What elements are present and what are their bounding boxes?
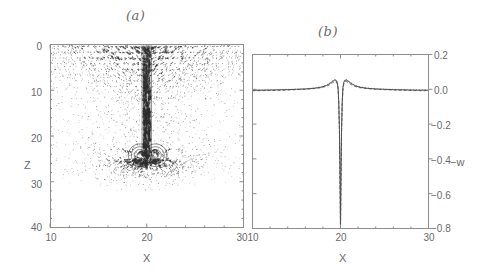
panel-a-ytick-1: 10 <box>16 87 42 98</box>
panel-b-ylabel: −w <box>450 156 464 168</box>
panel-b-ytick-1: 0.0 <box>434 85 448 96</box>
panel-b-ytick-3: −0.4 <box>431 155 451 166</box>
panel-a-xlabel: X <box>143 252 150 264</box>
panel-b-ytick-0: 0.2 <box>434 50 448 61</box>
panel-a-ylabel: Z <box>24 159 31 171</box>
panel-a-ytick-0: 0 <box>22 41 42 52</box>
panel-a-ytick-2: 20 <box>16 133 42 144</box>
panel-b-title: (b) <box>318 24 338 39</box>
panel-b-tickmarks <box>253 55 433 229</box>
panel-b-xlabel: X <box>339 252 346 264</box>
vector-field-arrows <box>50 42 243 191</box>
panel-a-ytick-4: 40 <box>16 222 42 233</box>
panel-a-title: (a) <box>126 8 145 23</box>
panel-b-xtick-0: 10 <box>243 232 263 243</box>
panel-b-xtick-2: 30 <box>419 232 439 243</box>
panel-b-xtick-1: 20 <box>331 232 351 243</box>
panel-a-ytick-3: 30 <box>16 179 42 190</box>
panel-a-xtick-1: 20 <box>137 232 157 243</box>
figure-container: (a) (b) Z X 0 10 20 30 40 10 20 30 X −w … <box>0 0 492 278</box>
panel-b-ytick-2: −0.2 <box>431 120 451 131</box>
velocity-profile-curves <box>253 79 429 228</box>
panel-a-xtick-0: 10 <box>41 232 61 243</box>
panel-b-ytick-4: −0.6 <box>431 190 451 201</box>
panel-a-tickmarks <box>50 45 244 228</box>
